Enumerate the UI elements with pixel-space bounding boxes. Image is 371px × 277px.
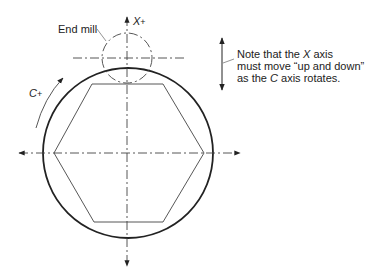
x-axis-label: X+: [132, 15, 146, 27]
note-text: Note that the X axis must move “up and d…: [237, 48, 367, 84]
end-mill-leader: [97, 29, 106, 41]
end-mill-label: End mill: [58, 23, 97, 35]
note-leader: [223, 59, 234, 63]
c-axis-label: C+: [29, 87, 42, 99]
milling-diagram: X+ End mill C+ Note that the X axis must…: [0, 0, 371, 277]
